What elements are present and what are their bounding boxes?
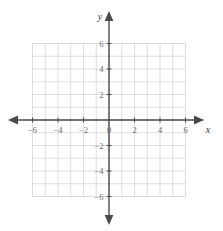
y-axis-tick-label: −6 (94, 192, 103, 202)
y-axis-tick-label: −2 (94, 141, 103, 151)
x-axis-tick-label: −6 (28, 125, 37, 135)
x-axis-tick-label: 6 (183, 125, 187, 135)
y-axis-top-arrowhead (105, 11, 114, 21)
x-axis-tick-label: 2 (132, 125, 136, 135)
y-axis-tick-label: 6 (99, 39, 103, 49)
coordinate-plane-svg: −6−4−20246 642−2−4−6 x y (0, 0, 223, 231)
y-axis-tick-label: 2 (99, 90, 103, 100)
x-axis-tick-label: −4 (53, 125, 63, 135)
x-axis-label: x (205, 124, 211, 135)
x-axis-left-arrowhead (8, 116, 18, 125)
x-axis-right-arrowhead (194, 116, 204, 125)
y-axis-label: y (97, 11, 103, 22)
y-axis-tick-label: −4 (94, 166, 104, 176)
x-axis-tick-label: −2 (79, 125, 88, 135)
x-axis-tick-label: 0 (107, 125, 111, 135)
y-axis-bottom-arrowhead (105, 215, 114, 225)
coordinate-plane-figure: −6−4−20246 642−2−4−6 x y (0, 0, 223, 231)
